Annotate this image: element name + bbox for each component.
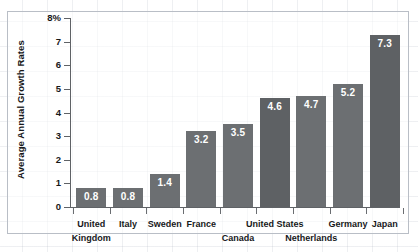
x-axis-category-label: Kingdom [72, 233, 111, 243]
x-axis-category-label: Italy [119, 219, 137, 229]
x-tick-mark [330, 208, 331, 214]
y-tick-label: 2 [56, 154, 61, 165]
x-tick-mark [146, 208, 147, 214]
y-tick-label: 1 [56, 177, 61, 188]
y-tick-label: 4 [56, 107, 61, 118]
x-axis-category-label: Netherlands [285, 233, 337, 243]
x-axis-category-label: United States [246, 219, 304, 229]
x-tick-mark [110, 208, 111, 214]
y-tick-label: 3 [56, 130, 61, 141]
y-tick-label: 5 [56, 83, 61, 94]
x-axis-category-labels: UnitedKingdomItalySwedenFranceCanadaUnit… [70, 18, 400, 208]
y-axis-title: Average Annual Growth Rates [15, 20, 26, 200]
x-axis-category-label: United [77, 219, 105, 229]
x-tick-mark [403, 208, 404, 214]
x-tick-mark [366, 208, 367, 214]
x-tick-mark [183, 208, 184, 214]
x-axis-category-label: Germany [328, 219, 367, 229]
y-tick-label: 0 [56, 201, 61, 212]
x-tick-mark [293, 208, 294, 214]
y-tick-label: 7 [56, 36, 61, 47]
x-axis-category-label: Sweden [148, 219, 182, 229]
x-tick-mark [73, 208, 74, 214]
y-tick-label: 8% [47, 12, 61, 23]
y-tick-label: 6 [56, 59, 61, 70]
x-axis-category-label: France [187, 219, 217, 229]
x-axis-category-label: Japan [372, 219, 398, 229]
x-axis-category-label: Canada [222, 233, 255, 243]
bar-chart-screenshot: Average Annual Growth Rates 012345678% 0… [0, 0, 418, 252]
x-tick-mark [256, 208, 257, 214]
x-tick-mark [220, 208, 221, 214]
